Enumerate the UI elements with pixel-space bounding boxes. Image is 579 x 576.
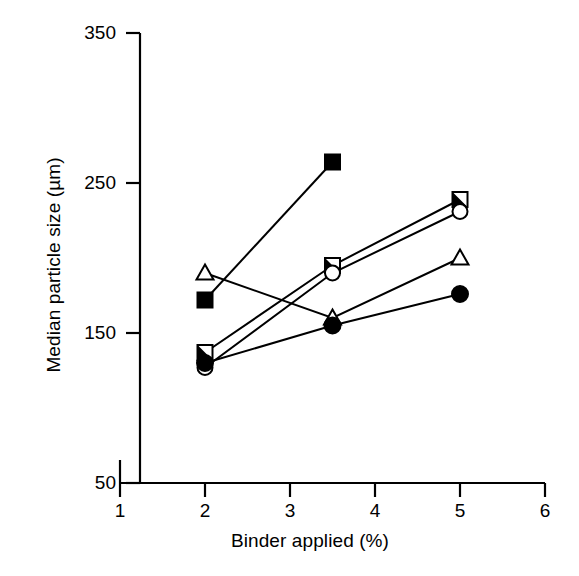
- x-tick-label-4: 4: [355, 500, 395, 522]
- x-tick-label-6: 6: [525, 500, 565, 522]
- y-tick-label-350: 350: [56, 22, 116, 44]
- y-tick-label-50: 50: [56, 472, 116, 494]
- y-tick-label-250: 250: [56, 172, 116, 194]
- marker-open-triangle: [452, 250, 469, 265]
- y-axis-title: Median particle size (µm): [43, 115, 65, 415]
- y-tick-label-150: 150: [56, 322, 116, 344]
- marker-filled-circle: [325, 318, 341, 334]
- marker-filled-circle: [197, 355, 213, 371]
- marker-filled-square: [198, 293, 213, 308]
- marker-open-circle: [453, 204, 468, 219]
- marker-filled-circle: [452, 286, 468, 302]
- x-tick-label-1: 1: [100, 500, 140, 522]
- x-tick-label-2: 2: [185, 500, 225, 522]
- series-filled-square: [198, 155, 341, 308]
- chart-figure: 350 250 150 50 1 2 3 4 5 6 Median partic…: [0, 0, 579, 576]
- marker-open-circle: [325, 266, 340, 281]
- x-tick-label-5: 5: [440, 500, 480, 522]
- series-open-circle: [198, 204, 468, 375]
- marker-open-triangle: [197, 265, 214, 280]
- data-series-layer: [197, 155, 469, 376]
- x-axis-title: Binder applied (%): [180, 530, 440, 552]
- series-filled-circle: [197, 286, 468, 371]
- x-axis-ticks: [120, 460, 545, 497]
- y-axis-ticks: [126, 33, 140, 483]
- marker-filled-square: [325, 155, 340, 170]
- x-tick-label-3: 3: [270, 500, 310, 522]
